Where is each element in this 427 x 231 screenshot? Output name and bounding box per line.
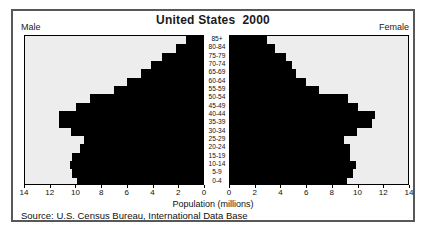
female-bar-row [230,119,408,127]
age-label-10-14: 10-14 [205,160,229,168]
male-bar-45-49 [76,103,203,111]
male-bar-row [25,119,203,127]
female-bar-row [230,111,408,119]
male-bar-40-44 [59,111,203,119]
female-bar-60-64 [230,78,306,86]
female-bar-row [230,94,408,102]
male-bar-row [25,69,203,77]
female-bar-30-34 [230,128,357,136]
male-bar-55-59 [114,86,203,94]
female-bar-55-59 [230,86,319,94]
x-axis-tick-label: 12 [40,188,60,197]
female-bar-15-19 [230,153,350,161]
male-bar-50-54 [90,94,203,102]
female-bar-35-39 [230,119,372,127]
male-bar-row [25,111,203,119]
male-bar-row [25,61,203,69]
age-label-30-34: 30-34 [205,127,229,135]
male-bar-row [25,78,203,86]
x-axis-tick-label: 8 [91,188,111,197]
x-axis-tick-label: 0 [194,188,214,197]
x-axis-tick-label: 4 [270,188,290,197]
x-axis-tick-label: 14 [14,188,34,197]
male-bar-row [25,178,203,185]
female-bar-row [230,44,408,52]
age-label-70-74: 70-74 [205,60,229,68]
female-bar-0-4 [230,178,347,185]
male-bar-row [25,36,203,44]
male-pyramid-plot [24,35,204,185]
male-bar-row [25,44,203,52]
x-axis-tick-label: 6 [117,188,137,197]
male-bar-75-79 [162,53,203,61]
female-bar-40-44 [230,111,375,119]
x-axis-tick-label: 10 [348,188,368,197]
age-label-45-49: 45-49 [205,102,229,110]
age-label-60-64: 60-64 [205,77,229,85]
female-bar-row [230,69,408,77]
male-bar-row [25,144,203,152]
male-bar-row [25,169,203,177]
female-side-label: Female [379,22,409,32]
male-bar-25-29 [84,136,204,144]
female-bar-75-79 [230,53,286,61]
x-axis-tick-label: 8 [322,188,342,197]
age-label-75-79: 75-79 [205,52,229,60]
female-bar-row [230,153,408,161]
age-label-50-54: 50-54 [205,93,229,101]
male-bar-row [25,103,203,111]
female-bar-65-69 [230,69,296,77]
age-label-15-19: 15-19 [205,152,229,160]
chart-title: United States 2000 [13,13,413,27]
female-bar-20-24 [230,144,350,152]
female-bar-row [230,136,408,144]
age-label-25-29: 25-29 [205,135,229,143]
female-bar-50-54 [230,94,348,102]
male-side-label: Male [21,22,41,32]
male-bar-5-9 [72,169,203,177]
female-bar-45-49 [230,103,358,111]
female-bar-5-9 [230,169,353,177]
male-bar-row [25,53,203,61]
female-bar-10-14 [230,161,356,169]
x-axis-tick-label: 10 [65,188,85,197]
female-pyramid-plot [229,35,409,185]
male-bar-row [25,128,203,136]
female-bar-70-74 [230,61,292,69]
female-bar-80-84 [230,44,275,52]
male-bar-85+ [186,36,203,44]
female-bar-row [230,178,408,185]
age-label-85+: 85+ [205,35,229,43]
age-label-20-24: 20-24 [205,143,229,151]
female-bar-85+ [230,36,267,44]
female-bar-row [230,36,408,44]
female-bar-row [230,86,408,94]
age-label-80-84: 80-84 [205,43,229,51]
female-bar-row [230,78,408,86]
x-axis-tick-label: 12 [373,188,393,197]
male-bar-15-19 [72,153,203,161]
x-axis-tick-label: 2 [168,188,188,197]
x-axis-tick-label: 14 [399,188,419,197]
male-bar-60-64 [127,78,203,86]
female-bar-row [230,144,408,152]
source-note: Source: U.S. Census Bureau, Internationa… [21,210,248,221]
female-bar-25-29 [230,136,344,144]
x-axis-tick-label: 4 [143,188,163,197]
chart-frame: United States 2000 Male Female 85+80-847… [11,9,415,222]
male-bar-row [25,94,203,102]
x-axis-title: Population (millions) [13,199,413,209]
male-bar-30-34 [71,128,203,136]
male-bar-20-24 [80,144,203,152]
male-bar-10-14 [70,161,204,169]
male-bar-row [25,86,203,94]
age-label-0-4: 0-4 [205,177,229,185]
male-bar-35-39 [59,119,203,127]
male-bar-0-4 [77,178,203,185]
age-label-5-9: 5-9 [205,168,229,176]
male-bar-70-74 [151,61,203,69]
female-bar-row [230,53,408,61]
age-group-labels: 85+80-8475-7970-7465-6960-6455-5950-5445… [205,35,229,185]
age-label-55-59: 55-59 [205,85,229,93]
male-bar-row [25,136,203,144]
